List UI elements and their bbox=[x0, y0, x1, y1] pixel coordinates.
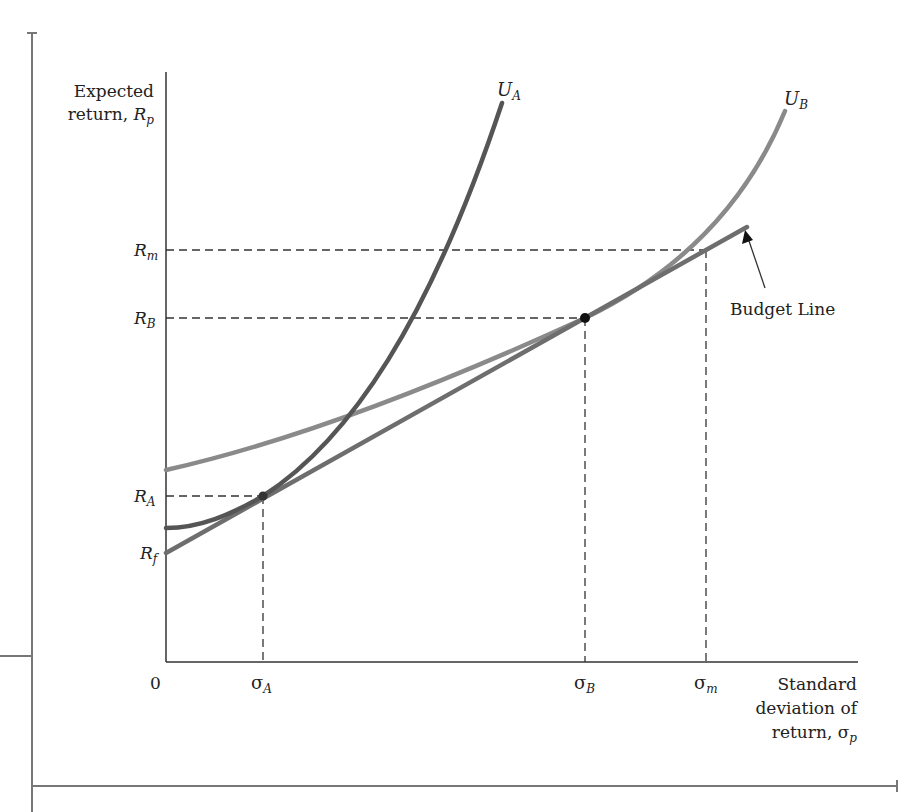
ua-label: UA bbox=[497, 79, 521, 103]
y-tick-ra: RA bbox=[133, 486, 156, 509]
x-tick-sigma-b: σB bbox=[574, 672, 595, 696]
budget-line-label: Budget Line bbox=[730, 299, 835, 319]
x-axis-title-line2: deviation of bbox=[755, 698, 858, 718]
x-axis-title-line3: return, σp bbox=[772, 722, 857, 745]
y-tick-rb: RB bbox=[133, 308, 156, 331]
ub-curve bbox=[166, 111, 785, 470]
x-axis-title-line1: Standard bbox=[777, 674, 857, 694]
point-b bbox=[580, 313, 590, 323]
chart-canvas: Expected return, Rp Rm RB RA Rf 0 σA σB … bbox=[0, 0, 907, 812]
x-tick-sigma-a: σA bbox=[251, 672, 272, 696]
x-tick-sigma-m: σm bbox=[694, 672, 718, 696]
budget-line-arrow bbox=[742, 230, 765, 288]
y-tick-rm: Rm bbox=[133, 240, 158, 263]
y-tick-rf: Rf bbox=[139, 543, 160, 566]
axes bbox=[166, 72, 858, 662]
point-a bbox=[259, 492, 268, 501]
budget-line bbox=[166, 227, 747, 553]
ua-curve bbox=[166, 103, 502, 528]
guide-lines bbox=[166, 250, 706, 662]
ub-label: UB bbox=[784, 88, 808, 112]
y-axis-title-line1: Expected bbox=[74, 81, 154, 101]
outer-frame bbox=[0, 33, 897, 812]
x-tick-origin: 0 bbox=[150, 673, 161, 693]
y-axis-title-line2: return, Rp bbox=[68, 104, 155, 127]
